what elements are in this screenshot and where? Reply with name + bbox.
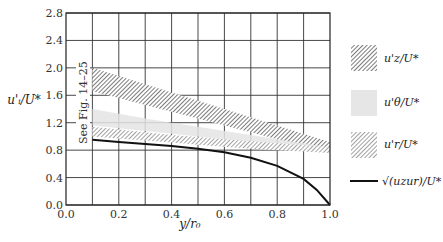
x-tick-label: 0.0 [57, 208, 75, 221]
legend-swatch-ur [351, 132, 377, 158]
legend-swatch-utheta [351, 90, 377, 116]
legend-label-ur: u'r/U* [384, 138, 418, 151]
legend-label-utheta: u'θ/U* [384, 96, 420, 109]
x-tick-label: 1.0 [321, 208, 339, 221]
data-bands [92, 68, 330, 153]
x-axis-label: y/r₀ [178, 217, 201, 231]
y-tick-label: 2.4 [46, 34, 64, 47]
y-tick-label: 1.6 [46, 89, 64, 102]
legend-swatch-uz [351, 45, 377, 71]
y-axis-label: u'ᵢ/U* [7, 93, 41, 107]
x-tick-label: 0.4 [163, 208, 181, 221]
y-tick-label: 0.4 [46, 172, 64, 185]
y-tick-label: 0.8 [46, 144, 64, 157]
x-tick-label: 0.8 [268, 208, 286, 221]
y-tick-label: 1.2 [46, 117, 64, 130]
chart: 0.00.40.81.21.62.02.42.80.00.20.40.60.81… [0, 0, 443, 242]
y-tick-label: 2.8 [46, 7, 64, 20]
legend: u'z/U* u'θ/U* u'r/U* √(uzur)/U* [350, 45, 442, 188]
see-figure-annotation: See Fig. 14–25 [76, 61, 90, 144]
legend-label-uz: u'z/U* [384, 52, 419, 65]
legend-label-correlation: √(uzur)/U* [382, 175, 442, 188]
y-tick-label: 2.0 [46, 62, 64, 75]
x-tick-label: 0.2 [110, 208, 128, 221]
svg-text:See Fig. 14–25: See Fig. 14–25 [77, 61, 90, 144]
x-tick-label: 0.6 [216, 208, 234, 221]
